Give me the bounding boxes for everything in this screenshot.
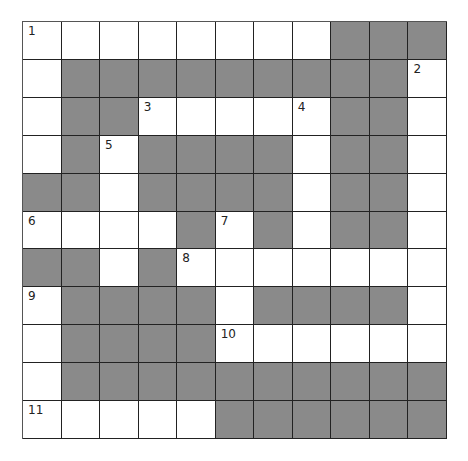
block-cell [331,98,370,136]
answer-cell[interactable] [177,98,216,136]
block-cell [331,401,370,439]
block-cell [370,136,409,174]
block-cell [177,287,216,325]
answer-cell[interactable] [408,136,447,174]
answer-cell[interactable]: 10 [216,325,255,363]
answer-cell[interactable] [293,174,332,212]
answer-cell[interactable] [23,98,62,136]
answer-cell[interactable] [100,401,139,439]
answer-cell[interactable] [62,401,101,439]
answer-cell[interactable] [216,249,255,287]
answer-cell[interactable] [62,22,101,60]
answer-cell[interactable] [139,212,178,250]
block-cell [139,60,178,98]
answer-cell[interactable] [254,249,293,287]
answer-cell[interactable] [100,212,139,250]
answer-cell[interactable] [408,174,447,212]
answer-cell[interactable] [216,22,255,60]
answer-cell[interactable] [254,22,293,60]
answer-cell[interactable] [23,363,62,401]
answer-cell[interactable] [177,22,216,60]
block-cell [177,363,216,401]
answer-cell[interactable] [23,136,62,174]
answer-cell[interactable] [216,287,255,325]
block-cell [293,287,332,325]
answer-cell[interactable] [100,22,139,60]
answer-cell[interactable]: 2 [408,60,447,98]
block-cell [100,60,139,98]
answer-cell[interactable] [331,325,370,363]
block-cell [293,401,332,439]
answer-cell[interactable] [62,212,101,250]
answer-cell[interactable] [100,174,139,212]
block-cell [139,363,178,401]
answer-cell[interactable]: 6 [23,212,62,250]
clue-number: 5 [105,139,113,151]
block-cell [331,287,370,325]
block-cell [370,60,409,98]
block-cell [62,136,101,174]
block-cell [139,249,178,287]
block-cell [254,363,293,401]
answer-cell[interactable] [408,325,447,363]
clue-number: 2 [413,63,421,75]
answer-cell[interactable] [139,401,178,439]
answer-cell[interactable] [293,136,332,174]
answer-cell[interactable] [254,325,293,363]
answer-cell[interactable] [331,249,370,287]
answer-cell[interactable] [23,60,62,98]
block-cell [62,60,101,98]
clue-number: 11 [28,404,43,416]
block-cell [254,60,293,98]
block-cell [139,325,178,363]
answer-cell[interactable] [23,325,62,363]
answer-cell[interactable] [408,98,447,136]
answer-cell[interactable] [254,98,293,136]
answer-cell[interactable]: 1 [23,22,62,60]
block-cell [331,363,370,401]
block-cell [408,22,447,60]
answer-cell[interactable] [100,249,139,287]
answer-cell[interactable] [293,249,332,287]
answer-cell[interactable]: 3 [139,98,178,136]
answer-cell[interactable] [139,22,178,60]
answer-cell[interactable] [177,401,216,439]
block-cell [216,60,255,98]
answer-cell[interactable] [408,249,447,287]
answer-cell[interactable]: 5 [100,136,139,174]
block-cell [216,363,255,401]
clue-number: 3 [144,101,152,113]
answer-cell[interactable] [293,325,332,363]
answer-cell[interactable] [408,287,447,325]
answer-cell[interactable]: 8 [177,249,216,287]
block-cell [216,136,255,174]
block-cell [370,98,409,136]
answer-cell[interactable]: 9 [23,287,62,325]
block-cell [408,363,447,401]
answer-cell[interactable] [293,22,332,60]
answer-cell[interactable]: 11 [23,401,62,439]
block-cell [139,287,178,325]
block-cell [62,98,101,136]
clue-number: 7 [221,215,229,227]
clue-number: 9 [28,290,36,302]
answer-cell[interactable] [370,249,409,287]
answer-cell[interactable] [293,212,332,250]
block-cell [254,401,293,439]
answer-cell[interactable] [370,325,409,363]
answer-cell[interactable] [408,212,447,250]
answer-cell[interactable]: 4 [293,98,332,136]
block-cell [254,136,293,174]
block-cell [331,22,370,60]
block-cell [331,60,370,98]
block-cell [177,325,216,363]
clue-number: 6 [28,215,36,227]
block-cell [370,363,409,401]
clue-number: 8 [182,252,190,264]
block-cell [254,174,293,212]
block-cell [370,22,409,60]
answer-cell[interactable]: 7 [216,212,255,250]
answer-cell[interactable] [216,98,255,136]
block-cell [254,212,293,250]
block-cell [370,401,409,439]
